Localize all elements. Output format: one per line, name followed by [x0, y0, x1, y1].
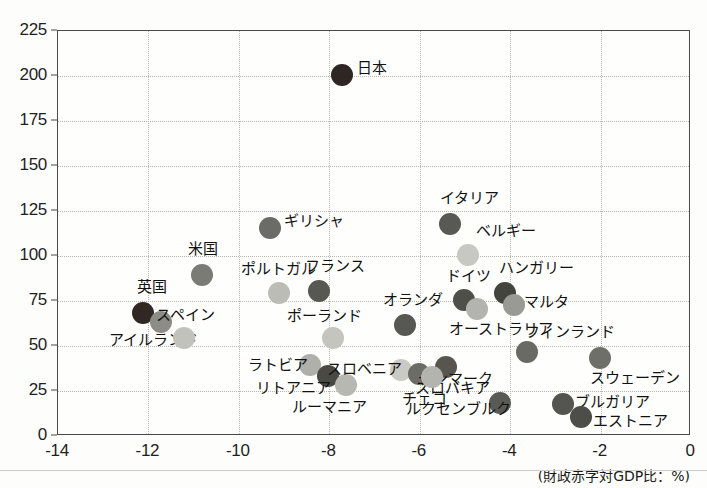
y-gridline — [58, 121, 689, 122]
data-point-label: オランダ — [383, 293, 443, 308]
y-tick-label: 75 — [3, 290, 47, 310]
x-tick-label: 0 — [685, 441, 694, 461]
data-point-label: フィンランド — [525, 325, 615, 340]
data-point-label: ルーマニア — [292, 400, 367, 415]
data-point-marker[interactable] — [331, 64, 353, 86]
y-gridline — [58, 166, 689, 167]
data-point-label: スペイン — [156, 308, 215, 323]
data-point-marker[interactable] — [173, 327, 195, 349]
y-tick-mark — [51, 30, 57, 31]
y-gridline — [58, 211, 689, 212]
data-point-label: イタリア — [440, 191, 499, 206]
data-point-marker[interactable] — [503, 294, 525, 316]
data-point-label: ハンガリー — [499, 261, 574, 276]
y-tick-mark — [51, 435, 57, 436]
x-tick-label: -4 — [502, 441, 517, 461]
data-point-marker[interactable] — [457, 244, 479, 266]
y-tick-label: 225 — [3, 20, 47, 40]
x-tick-label: -8 — [321, 441, 336, 461]
y-tick-mark — [51, 255, 57, 256]
y-tick-mark — [51, 390, 57, 391]
data-point-marker[interactable] — [421, 366, 443, 388]
data-point-label: エストニア — [593, 414, 668, 429]
data-point-label: フランス — [305, 259, 365, 274]
data-point-marker[interactable] — [191, 264, 213, 286]
data-point-marker[interactable] — [322, 327, 344, 349]
y-tick-label: 125 — [3, 200, 47, 220]
data-point-label: ルクセンブルク — [406, 402, 511, 417]
data-point-marker[interactable] — [439, 213, 461, 235]
data-point-marker[interactable] — [570, 406, 592, 428]
data-point-label: ポーランド — [287, 309, 362, 324]
y-gridline — [58, 391, 689, 392]
y-gridline — [58, 301, 689, 302]
y-tick-label: 100 — [3, 245, 47, 265]
y-tick-mark — [51, 300, 57, 301]
x-tick-label: -10 — [226, 441, 250, 461]
y-tick-label: 200 — [3, 65, 47, 85]
data-point-label: ラトビア — [248, 358, 308, 373]
x-gridline — [239, 31, 240, 434]
y-tick-mark — [51, 120, 57, 121]
y-tick-mark — [51, 210, 57, 211]
data-point-label: 日本 — [357, 61, 387, 76]
data-point-label: スロベニア — [327, 362, 402, 377]
y-tick-mark — [51, 75, 57, 76]
data-point-marker[interactable] — [268, 282, 290, 304]
y-tick-label: 0 — [3, 425, 47, 445]
x-tick-label: -12 — [136, 441, 160, 461]
data-point-marker[interactable] — [589, 347, 611, 369]
x-gridline — [148, 31, 149, 434]
scatter-chart: -14-12-10-8-6-4-200255075100125150175200… — [0, 0, 707, 488]
y-tick-label: 150 — [3, 155, 47, 175]
data-point-label: ベルギー — [476, 224, 536, 239]
data-point-marker[interactable] — [394, 314, 416, 336]
bottom-divider — [0, 470, 707, 471]
y-tick-mark — [51, 345, 57, 346]
data-point-label: ドイツ — [446, 269, 491, 284]
x-tick-label: -14 — [45, 441, 69, 461]
data-point-label: 米国 — [188, 242, 218, 257]
data-point-label: スウェーデン — [590, 371, 680, 386]
data-point-label: リトアニア — [256, 381, 331, 396]
x-tick-label: -6 — [411, 441, 426, 461]
y-tick-label: 50 — [3, 335, 47, 355]
y-tick-label: 175 — [3, 110, 47, 130]
x-axis-caption: (財政赤字対GDP比：%) — [490, 465, 690, 485]
data-point-marker[interactable] — [259, 217, 281, 239]
data-point-marker[interactable] — [308, 280, 330, 302]
y-gridline — [58, 256, 689, 257]
data-point-label: マルタ — [524, 295, 569, 310]
data-point-marker[interactable] — [466, 298, 488, 320]
data-point-label: ギリシャ — [284, 214, 344, 229]
data-point-marker[interactable] — [516, 341, 538, 363]
x-tick-label: -2 — [592, 441, 607, 461]
y-tick-label: 25 — [3, 380, 47, 400]
y-tick-mark — [51, 165, 57, 166]
data-point-label: 英国 — [137, 280, 167, 295]
